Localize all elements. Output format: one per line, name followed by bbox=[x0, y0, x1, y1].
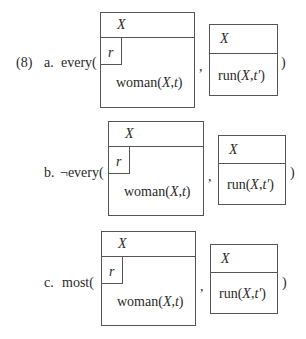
drs-condition: woman(X,t) bbox=[124, 185, 191, 199]
quantifier: ¬every( bbox=[60, 166, 104, 180]
drs-condition: run(X,t′) bbox=[218, 69, 265, 83]
drs-referent: X bbox=[118, 237, 127, 251]
drs-divider bbox=[219, 163, 285, 164]
drs-referent: X bbox=[221, 252, 230, 266]
quantifier: every( bbox=[61, 56, 97, 70]
r-label: r bbox=[109, 265, 114, 279]
separator-comma: , bbox=[200, 280, 204, 294]
restrictor-drs: X r woman(X,t) bbox=[108, 121, 204, 216]
drs-divider bbox=[211, 272, 277, 273]
restrictor-drs: X r woman(X,t) bbox=[101, 231, 196, 326]
close-paren: ) bbox=[281, 56, 286, 70]
drs-condition: woman(X,t) bbox=[116, 76, 183, 90]
scope-drs: X run(X,t′) bbox=[210, 244, 278, 314]
drs-referent: X bbox=[220, 32, 229, 46]
example-number: (8) bbox=[16, 56, 32, 70]
r-label: r bbox=[116, 155, 121, 169]
item-label: b. bbox=[44, 166, 55, 180]
item-label: a. bbox=[44, 56, 54, 70]
drs-referent: X bbox=[117, 18, 126, 32]
item-label: c. bbox=[44, 276, 54, 290]
quantifier: most( bbox=[62, 276, 94, 290]
scope-drs: X run(X,t′) bbox=[209, 24, 278, 96]
drs-condition: woman(X,t) bbox=[117, 295, 184, 309]
r-box: r bbox=[100, 37, 122, 65]
separator-comma: , bbox=[208, 170, 212, 184]
separator-comma: , bbox=[199, 60, 203, 74]
r-box: r bbox=[101, 256, 123, 284]
scope-drs: X run(X,t′) bbox=[218, 135, 286, 205]
close-paren: ) bbox=[290, 166, 295, 180]
drs-condition: run(X,t′) bbox=[219, 287, 266, 301]
drs-referent: X bbox=[229, 143, 238, 157]
close-paren: ) bbox=[282, 276, 287, 290]
drs-condition: run(X,t′) bbox=[227, 178, 274, 192]
r-label: r bbox=[108, 46, 113, 60]
drs-divider bbox=[210, 53, 277, 54]
drs-referent: X bbox=[125, 127, 134, 141]
restrictor-drs: X r woman(X,t) bbox=[100, 12, 195, 108]
r-box: r bbox=[108, 146, 130, 174]
